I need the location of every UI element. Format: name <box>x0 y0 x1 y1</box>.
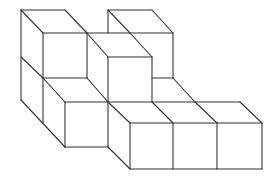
cube-edge <box>87 33 108 57</box>
cube-edge <box>152 10 173 33</box>
cube-edge <box>152 102 173 123</box>
cube-edge <box>21 10 43 33</box>
cube-edge <box>240 102 262 123</box>
cube-edge <box>108 10 130 33</box>
cube-edge <box>108 102 130 123</box>
cube-diagram <box>0 0 272 180</box>
cube-edge <box>195 102 217 123</box>
cube-edge <box>108 147 130 169</box>
isometric-cubes-drawing <box>0 0 272 180</box>
cube-edge <box>173 78 195 102</box>
cube-edge <box>43 78 65 102</box>
cube-edge <box>21 57 43 78</box>
cube-edge <box>65 10 87 33</box>
cube-edge <box>87 78 108 102</box>
cube-edge <box>130 33 152 57</box>
